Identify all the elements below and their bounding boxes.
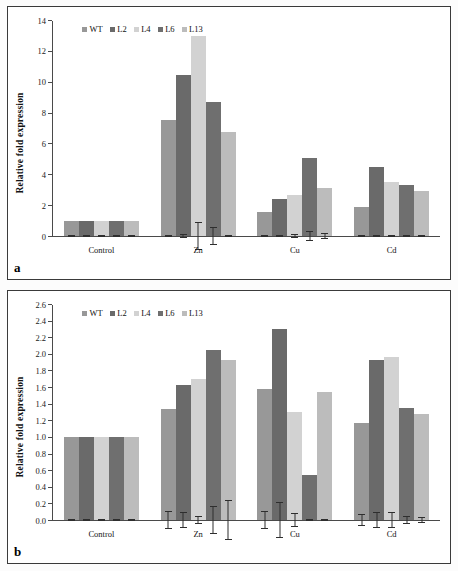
bar-cu-l2[interactable] bbox=[272, 329, 287, 520]
y-axis-tick-mark bbox=[48, 143, 52, 144]
y-axis-tick-mark bbox=[48, 404, 52, 405]
bar-cd-l4[interactable] bbox=[384, 182, 399, 236]
bar-control-l2[interactable] bbox=[79, 221, 94, 236]
bar-slot bbox=[354, 21, 369, 236]
bar-control-l6[interactable] bbox=[109, 437, 124, 520]
y-axis-tick-mark bbox=[48, 387, 52, 388]
bar-zn-wt[interactable] bbox=[161, 120, 176, 236]
y-axis-tick-mark bbox=[48, 487, 52, 488]
bar-control-l13[interactable] bbox=[124, 221, 139, 236]
bar-cu-wt[interactable] bbox=[257, 389, 272, 520]
bar-control-l2[interactable] bbox=[79, 437, 94, 520]
y-axis-tick-label: 1.2 bbox=[35, 417, 52, 426]
bar-zn-l2[interactable] bbox=[176, 75, 191, 236]
bar-slot bbox=[384, 305, 399, 520]
bar-cu-l13[interactable] bbox=[317, 392, 332, 520]
bar-cd-l13[interactable] bbox=[414, 414, 429, 520]
y-axis-tick-label: 14 bbox=[38, 17, 53, 26]
y-axis-tick-label: 1.0 bbox=[35, 434, 52, 443]
y-axis-tick-label: 2.4 bbox=[35, 317, 52, 326]
bar-slot bbox=[272, 21, 287, 236]
bar-cd-l6[interactable] bbox=[399, 408, 414, 520]
bar-slot bbox=[161, 21, 176, 236]
bar-cu-l4[interactable] bbox=[287, 412, 302, 520]
bar-slot bbox=[272, 305, 287, 520]
bar-control-l13[interactable] bbox=[124, 437, 139, 520]
panel-a-x-axis-line bbox=[52, 236, 440, 237]
y-axis-tick-label: 0.0 bbox=[35, 517, 52, 526]
y-axis-tick-mark bbox=[48, 321, 52, 322]
bar-cu-l4[interactable] bbox=[287, 195, 302, 236]
bar-cd-l2[interactable] bbox=[369, 167, 384, 236]
error-bar bbox=[228, 235, 229, 237]
y-axis-tick-mark bbox=[48, 503, 52, 504]
panel-b-bar-groups bbox=[53, 305, 440, 520]
bar-control-l4[interactable] bbox=[94, 221, 109, 236]
error-bar bbox=[406, 236, 407, 237]
bar-group-zn bbox=[150, 305, 247, 520]
bar-zn-l13[interactable] bbox=[221, 132, 236, 236]
bar-slot bbox=[414, 305, 429, 520]
bar-control-wt[interactable] bbox=[64, 221, 79, 236]
error-bar bbox=[421, 517, 422, 523]
y-axis-tick-mark bbox=[48, 82, 52, 83]
bar-slot bbox=[257, 305, 272, 520]
bar-cu-l6[interactable] bbox=[302, 158, 317, 236]
bar-cd-wt[interactable] bbox=[354, 207, 369, 236]
y-axis-tick-label: 0.4 bbox=[35, 484, 52, 493]
y-axis-tick-label: 4 bbox=[42, 171, 52, 180]
panel-b-plot-area: 0.00.20.40.60.81.01.21.41.61.82.02.22.42… bbox=[52, 305, 440, 521]
error-bar bbox=[324, 519, 325, 522]
bar-cu-l13[interactable] bbox=[317, 188, 332, 236]
bar-slot bbox=[94, 21, 109, 236]
x-axis-label-cd: Cd bbox=[343, 243, 440, 257]
bar-cd-l13[interactable] bbox=[414, 191, 429, 236]
bar-slot bbox=[317, 21, 332, 236]
bar-cu-wt[interactable] bbox=[257, 212, 272, 236]
bar-slot bbox=[302, 21, 317, 236]
bar-cd-l4[interactable] bbox=[384, 357, 399, 520]
bar-slot bbox=[287, 305, 302, 520]
bar-group-zn bbox=[150, 21, 247, 236]
panel-a-letter: a bbox=[14, 260, 21, 276]
x-axis-label-zn: Zn bbox=[150, 527, 247, 541]
bar-slot bbox=[109, 305, 124, 520]
bar-zn-wt[interactable] bbox=[161, 409, 176, 520]
error-bar bbox=[279, 236, 280, 237]
bar-zn-l4[interactable] bbox=[191, 36, 206, 236]
bar-zn-l4[interactable] bbox=[191, 379, 206, 520]
error-bar bbox=[294, 234, 295, 239]
bar-cd-wt[interactable] bbox=[354, 423, 369, 520]
y-axis-tick-label: 12 bbox=[38, 48, 53, 57]
bar-control-l4[interactable] bbox=[94, 437, 109, 520]
y-axis-tick-label: 0 bbox=[42, 233, 52, 242]
bar-cu-l2[interactable] bbox=[272, 199, 287, 236]
bar-cu-l6[interactable] bbox=[302, 475, 317, 520]
bar-cd-l6[interactable] bbox=[399, 185, 414, 236]
bar-control-wt[interactable] bbox=[64, 437, 79, 520]
chart-panel-b: Relative fold expression WTL2L4L6L13 0.0… bbox=[7, 290, 451, 564]
bar-slot bbox=[221, 305, 236, 520]
panel-b-x-axis-labels: ControlZnCuCd bbox=[53, 527, 440, 541]
panel-b-x-axis-line bbox=[52, 520, 440, 521]
x-axis-label-cd: Cd bbox=[343, 527, 440, 541]
y-axis-tick-label: 1.6 bbox=[35, 384, 52, 393]
y-axis-tick-mark bbox=[48, 437, 52, 438]
bar-slot bbox=[176, 21, 191, 236]
panel-b-letter: b bbox=[14, 544, 21, 560]
y-axis-tick-mark bbox=[48, 113, 52, 114]
y-axis-tick-mark bbox=[48, 236, 52, 237]
bar-slot bbox=[399, 21, 414, 236]
error-bar bbox=[309, 519, 310, 521]
bar-zn-l6[interactable] bbox=[206, 350, 221, 520]
bar-zn-l2[interactable] bbox=[176, 385, 191, 520]
bar-cd-l2[interactable] bbox=[369, 360, 384, 520]
error-bar bbox=[406, 516, 407, 525]
bar-group-cd bbox=[343, 305, 440, 520]
panel-a-y-axis-title-text: Relative fold expression bbox=[15, 92, 25, 193]
bar-zn-l13[interactable] bbox=[221, 360, 236, 520]
bar-control-l6[interactable] bbox=[109, 221, 124, 236]
bar-slot bbox=[257, 21, 272, 236]
bar-zn-l6[interactable] bbox=[206, 102, 221, 236]
x-axis-label-control: Control bbox=[53, 527, 150, 541]
